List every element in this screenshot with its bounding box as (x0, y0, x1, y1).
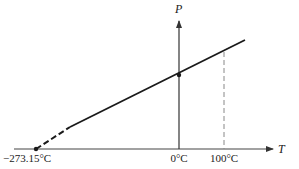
pressure-line (70, 40, 245, 127)
tick-label-absolute-zero: −273.15°C (3, 152, 51, 164)
diagram-canvas: P T −273.15°C 0°C 100°C (0, 0, 299, 169)
extrapolation-line (36, 127, 70, 149)
absolute-zero-point (34, 147, 38, 151)
x-axis-label: T (278, 142, 286, 156)
tick-label-zero: 0°C (170, 152, 187, 164)
y-axis-label: P (174, 2, 183, 16)
pressure-temperature-diagram: P T −273.15°C 0°C 100°C (0, 0, 299, 169)
zero-celsius-point (177, 73, 181, 77)
tick-label-hundred: 100°C (210, 152, 238, 164)
